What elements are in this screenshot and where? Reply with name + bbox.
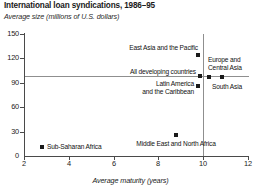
x-axis-title: Average maturity (years) [0, 176, 261, 185]
y-tick-60 [20, 107, 24, 108]
data-point-latin-america-and-the-caribbean [196, 84, 200, 88]
y-axis-line [24, 33, 25, 157]
data-point-south-asia [220, 75, 224, 79]
y-tick-label-120: 120 [0, 54, 19, 62]
reference-line-horizontal-100 [25, 76, 249, 77]
data-label-east-asia-and-the-pacific: East Asia and the Pacific [92, 44, 198, 51]
data-label-latin-america-line1: Latin America [100, 80, 194, 87]
data-point-east-asia-and-the-pacific [196, 53, 200, 57]
data-point-all-developing-countries [198, 74, 202, 78]
x-tick-label-2: 2 [14, 160, 34, 168]
data-label-europe-and-central-asia-line2: Central Asia [208, 64, 242, 71]
chart-figure: International loan syndications, 1986–95… [0, 0, 261, 191]
x-axis-line [24, 156, 249, 157]
x-tick-label-10: 10 [193, 160, 213, 168]
y-tick-150 [20, 34, 24, 35]
data-point-middle-east-and-north-africa [174, 133, 178, 137]
y-tick-label-0: 0 [0, 152, 19, 160]
x-tick-label-6: 6 [104, 160, 124, 168]
chart-subtitle: Average size (millions of U.S. dollars) [4, 12, 119, 21]
data-label-south-asia: South Asia [212, 83, 242, 90]
data-label-europe-and-central-asia-line1: Europe and [208, 56, 241, 63]
data-label-sub-saharan-africa: Sub-Saharan Africa [47, 143, 101, 150]
x-tick-label-4: 4 [59, 160, 79, 168]
y-tick-label-60: 60 [0, 103, 19, 111]
data-point-sub-saharan-africa [40, 145, 44, 149]
y-tick-30 [20, 132, 24, 133]
y-tick-label-90: 90 [0, 79, 19, 87]
x-tick-label-8: 8 [148, 160, 168, 168]
data-label-latin-america-line2: and the Caribbean [100, 88, 194, 95]
data-point-europe-and-central-asia [207, 75, 211, 79]
data-label-middle-east-and-north-africa: Middle East and North Africa [126, 140, 226, 147]
y-tick-label-30: 30 [0, 128, 19, 136]
y-tick-90 [20, 83, 24, 84]
x-tick-label-12: 12 [238, 160, 258, 168]
y-tick-label-150: 150 [0, 30, 19, 38]
chart-title: International loan syndications, 1986–95 [4, 1, 155, 11]
data-label-all-developing-countries: All developing countries [92, 68, 196, 75]
y-tick-120 [20, 58, 24, 59]
reference-line-vertical-10 [203, 34, 204, 156]
